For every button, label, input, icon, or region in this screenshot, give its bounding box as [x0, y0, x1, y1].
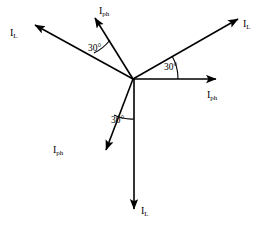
phasor-arrow-il-upper-left [35, 25, 133, 79]
phasor-label-iph-upper: Iph [99, 6, 109, 16]
phasor-diagram-canvas: Iph IL Iph IL Iph IL 30° 30° 30° [0, 0, 264, 239]
phasor-label-il-upper-right: IL [243, 19, 251, 29]
phasor-label-iph-lower-left: Iph [53, 145, 63, 155]
phasor-vector-graphic [0, 0, 264, 239]
phasor-label-il-bottom: IL [141, 206, 149, 216]
angle-label-right: 30° [164, 63, 177, 73]
angle-label-upper-left: 30° [88, 44, 101, 54]
phasor-label-il-upper-left: IL [10, 28, 18, 38]
angle-label-bottom: 30° [111, 116, 124, 126]
phasor-label-iph-right: Iph [207, 90, 217, 100]
phasor-arrow-il-upper-right [133, 19, 238, 79]
phasor-arrow-group [35, 18, 238, 209]
